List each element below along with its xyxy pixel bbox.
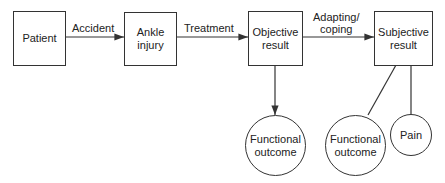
- node-label: outcome: [330, 146, 381, 159]
- node-label: Pain: [400, 129, 422, 142]
- edge-label-text: coping: [313, 23, 359, 35]
- node-label: outcome: [250, 146, 301, 159]
- node-pain: Pain: [390, 114, 432, 156]
- node-objective-result: Objective result: [248, 11, 303, 66]
- edge-label-text: Treatment: [184, 22, 234, 34]
- node-ankle-injury: Ankle injury: [124, 12, 177, 66]
- edge-label-accident: Accident: [72, 22, 114, 34]
- node-functional-outcome-subjective: Functional outcome: [325, 115, 386, 176]
- edge-label-adapting: Adapting/ coping: [313, 11, 359, 35]
- node-functional-outcome-objective: Functional outcome: [245, 115, 306, 176]
- node-label: Functional: [330, 133, 381, 146]
- node-label: Functional: [250, 133, 301, 146]
- node-label: Patient: [22, 32, 56, 45]
- edge-label-text: Accident: [72, 22, 114, 34]
- edge-label-treatment: Treatment: [184, 22, 234, 34]
- node-label: Objective: [253, 26, 299, 39]
- node-label: Subjective: [378, 26, 429, 39]
- node-label: injury: [137, 39, 165, 52]
- node-label: Ankle: [137, 26, 165, 39]
- node-patient: Patient: [13, 11, 66, 66]
- edge-label-text: Adapting/: [313, 11, 359, 23]
- node-label: result: [378, 39, 429, 52]
- node-subjective-result: Subjective result: [374, 11, 433, 66]
- node-label: result: [253, 39, 299, 52]
- line-subjective-functional: [368, 65, 396, 115]
